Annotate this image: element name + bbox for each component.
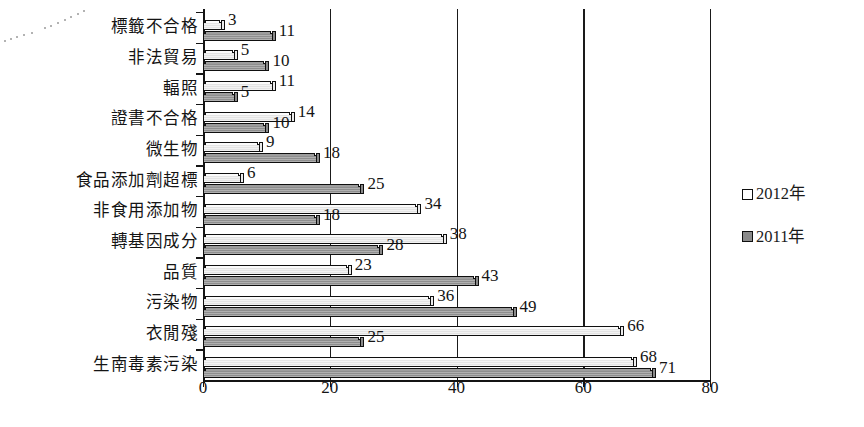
- bar-cap: [265, 123, 269, 133]
- category-label: 衣閒殘: [146, 326, 199, 343]
- value-label: 43: [482, 267, 499, 284]
- bar-cap: [316, 153, 320, 163]
- bar-face: [203, 144, 260, 152]
- bar-cap: [360, 337, 364, 347]
- legend-label-2012: 2012年: [756, 186, 806, 203]
- bar-top: [205, 50, 233, 53]
- bar-face: [203, 328, 621, 336]
- bar-top: [205, 326, 619, 329]
- bar-cap: [443, 234, 447, 244]
- bar-top: [205, 20, 220, 23]
- bar-2012年-輻照: [203, 81, 273, 91]
- bar-top: [205, 184, 359, 187]
- bar-2011年-食品添加劑超標: [203, 184, 361, 194]
- bar-cap: [221, 20, 225, 30]
- value-label: 9: [266, 133, 275, 150]
- bar-2012年-非法貿易: [203, 50, 235, 60]
- gridline-80: [710, 9, 711, 380]
- bar-cap: [620, 326, 624, 336]
- bar-cap: [272, 31, 276, 41]
- bar-cap: [265, 61, 269, 71]
- category-label: 非食用添加物: [93, 203, 198, 220]
- bar-top: [205, 276, 474, 279]
- y-tick-11: [196, 349, 203, 350]
- bar-cap: [379, 245, 383, 255]
- bar-top: [205, 296, 429, 299]
- bar-cap: [240, 173, 244, 183]
- bar-2011年-標籤不合格: [203, 31, 273, 41]
- y-tick-1: [196, 43, 203, 44]
- gridline-40: [457, 9, 458, 380]
- bar-top: [205, 337, 359, 340]
- value-label: 49: [520, 298, 537, 315]
- gridline-60: [583, 9, 584, 380]
- x-tick-label-40: 40: [437, 379, 477, 396]
- bar-cap: [652, 368, 656, 378]
- bar-face: [203, 125, 266, 133]
- bar-top: [205, 245, 378, 248]
- value-label: 66: [627, 317, 644, 334]
- bar-2012年-標籤不合格: [203, 20, 222, 30]
- bar-2011年-品質: [203, 276, 476, 286]
- value-label: 34: [424, 195, 441, 212]
- bar-cap: [417, 204, 421, 214]
- bar-2012年-非食用添加物: [203, 204, 418, 214]
- bar-face: [203, 217, 317, 225]
- bar-cap: [360, 184, 364, 194]
- bar-face: [203, 370, 653, 378]
- legend-label-2011: 2011年: [756, 229, 805, 246]
- bar-2012年-食品添加劑超標: [203, 173, 241, 183]
- value-label: 5: [241, 41, 250, 58]
- bar-2012年-轉基因成分: [203, 234, 444, 244]
- bar-2011年-非法貿易: [203, 61, 266, 71]
- legend-item-2012: 2012年: [742, 186, 806, 203]
- bar-2011年-證書不合格: [203, 123, 266, 133]
- bar-top: [205, 215, 315, 218]
- value-label: 3: [228, 11, 237, 28]
- bar-top: [205, 307, 512, 310]
- bar-2011年-污染物: [203, 307, 514, 317]
- category-label: 輻照: [163, 81, 198, 98]
- category-label: 轉基因成分: [111, 234, 199, 251]
- scan-artifact: [0, 0, 120, 60]
- value-label: 25: [367, 328, 384, 345]
- y-tick-3: [196, 104, 203, 105]
- bar-cap: [348, 265, 352, 275]
- value-label: 68: [640, 348, 657, 365]
- value-label: 71: [659, 359, 676, 376]
- value-label: 23: [355, 256, 372, 273]
- value-label: 18: [323, 144, 340, 161]
- y-tick-5: [196, 165, 203, 166]
- bar-top: [205, 31, 271, 34]
- bar-2011年-衣閒殘: [203, 337, 361, 347]
- y-tick-0: [196, 12, 203, 13]
- value-label: 25: [367, 175, 384, 192]
- bar-face: [203, 155, 317, 163]
- bar-cap: [259, 142, 263, 152]
- legend-item-2011: 2011年: [742, 229, 806, 246]
- bar-2012年-污染物: [203, 296, 431, 306]
- bar-face: [203, 298, 431, 306]
- bar-face: [203, 63, 266, 71]
- category-label: 非法貿易: [128, 50, 198, 67]
- bar-2011年-微生物: [203, 153, 317, 163]
- bar-face: [203, 359, 634, 367]
- bar-2011年-非食用添加物: [203, 215, 317, 225]
- bar-face: [203, 247, 380, 255]
- category-label: 微生物: [146, 142, 199, 159]
- bar-2012年-微生物: [203, 142, 260, 152]
- bar-cap: [272, 81, 276, 91]
- y-tick-7: [196, 227, 203, 228]
- value-label: 38: [450, 225, 467, 242]
- y-tick-10: [196, 319, 203, 320]
- bar-top: [205, 142, 258, 145]
- bar-face: [203, 278, 476, 286]
- y-tick-2: [196, 73, 203, 74]
- bar-face: [203, 339, 361, 347]
- bar-top: [205, 204, 416, 207]
- bar-2012年-品質: [203, 265, 349, 275]
- value-label: 28: [386, 236, 403, 253]
- bar-face: [203, 236, 444, 244]
- value-label: 36: [437, 287, 454, 304]
- x-tick-label-80: 80: [690, 379, 730, 396]
